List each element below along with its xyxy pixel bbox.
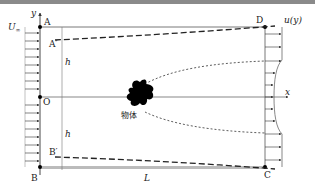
point-O-label: O [43, 98, 50, 107]
freestream-base: U [8, 22, 16, 32]
point-B-label: B [31, 174, 38, 183]
outlet-profile-label: u(y) [284, 16, 302, 25]
wake-boundary-bottom [145, 112, 265, 133]
wake-boundary-top [145, 61, 265, 84]
uniform-inflow-arrows [25, 33, 39, 161]
point-D-label: D [256, 16, 263, 25]
freestream-label: U∞ [8, 23, 21, 33]
body-label: 物体 [121, 112, 137, 120]
point-A-label: A [44, 18, 51, 27]
streamline-A-prime-D [55, 26, 275, 40]
point-C-label: C [264, 171, 271, 180]
body-shape [127, 80, 154, 106]
height-bottom-label: h [65, 130, 71, 139]
point-A-prime-label: A′ [49, 40, 58, 49]
y-axis-label: y [31, 9, 36, 18]
x-axis-label: x [285, 88, 290, 97]
length-label: L [144, 174, 150, 183]
height-top-label: h [65, 58, 71, 67]
control-volume-diagram [0, 0, 315, 190]
point-B-prime-label: B′ [49, 148, 58, 157]
freestream-subscript: ∞ [16, 26, 21, 33]
